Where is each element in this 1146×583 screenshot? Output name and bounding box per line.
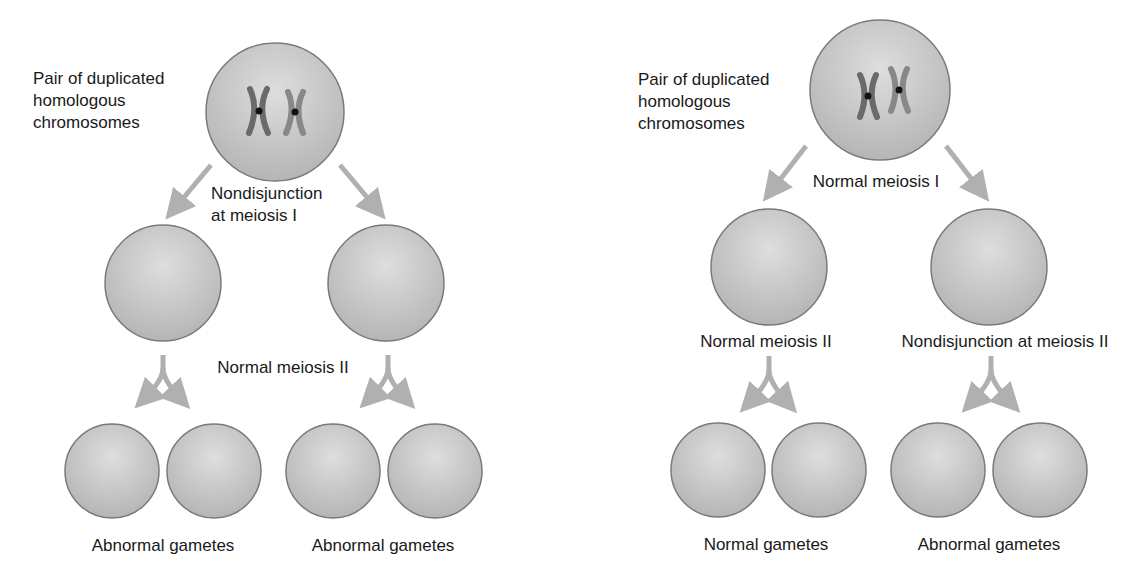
arrow-icon: [946, 146, 980, 190]
gametes-label: Abnormal gametes: [918, 534, 1061, 556]
nondisjunction-diagram: [0, 0, 1146, 583]
meiosis2-nondisjunction-label: Nondisjunction at meiosis II: [902, 331, 1109, 353]
gamete-cell: [671, 423, 765, 517]
split-arrow-icon: [972, 356, 1010, 402]
split-arrow-icon: [750, 356, 787, 402]
arrow-icon: [772, 146, 806, 190]
split-arrow-icon: [370, 355, 405, 398]
parent-cell: [206, 43, 344, 181]
gamete-cell: [891, 423, 985, 517]
gamete-cell: [286, 424, 380, 518]
arrow-icon: [175, 165, 211, 208]
gamete-cell: [65, 424, 159, 518]
split-arrow-icon: [145, 355, 180, 398]
daughter-cell: [105, 225, 221, 341]
parent-cell: [810, 20, 950, 160]
parent-cell-label: Pair of duplicated homologous chromosome…: [638, 69, 769, 135]
meiosis1-label: Normal meiosis I: [813, 171, 940, 193]
daughter-cell: [711, 209, 827, 325]
meiosis2-label: Normal meiosis II: [700, 331, 831, 353]
gamete-cell: [388, 424, 482, 518]
meiosis1-label: Nondisjunction at meiosis I: [211, 183, 323, 227]
parent-cell-label: Pair of duplicated homologous chromosome…: [33, 68, 164, 134]
gamete-cell: [772, 423, 866, 517]
daughter-cell: [328, 225, 444, 341]
gametes-label: Abnormal gametes: [312, 535, 455, 557]
gametes-label: Abnormal gametes: [92, 535, 235, 557]
arrow-icon: [340, 165, 376, 208]
meiosis2-label: Normal meiosis II: [217, 357, 348, 379]
gamete-cell: [167, 424, 261, 518]
gamete-cell: [993, 423, 1087, 517]
gametes-label: Normal gametes: [704, 534, 829, 556]
daughter-cell: [931, 209, 1047, 325]
